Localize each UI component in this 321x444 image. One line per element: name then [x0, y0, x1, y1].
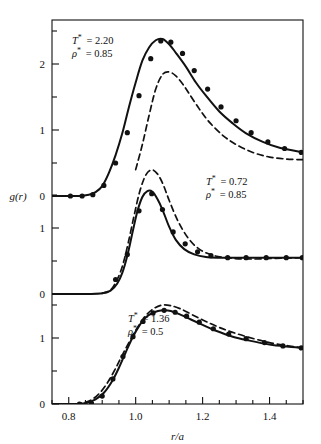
data-point: [184, 314, 189, 319]
annotation-middle: T* = 0.72ρ* = 0.85: [205, 174, 247, 201]
y-tick-label: 0: [40, 190, 46, 202]
data-point: [113, 277, 118, 282]
figure-container: 0.81.01.21.4r/a0101012g(r)T* = 2.20ρ* = …: [0, 0, 321, 444]
y-tick-label: 1: [40, 332, 46, 344]
data-point: [173, 310, 178, 315]
annotation-top: T* = 2.20ρ* = 0.85: [71, 33, 113, 60]
data-point: [136, 208, 141, 213]
data-point: [211, 326, 216, 331]
data-point: [120, 354, 125, 359]
data-point: [110, 376, 115, 381]
data-point: [280, 343, 285, 348]
data-point: [195, 249, 200, 254]
data-point: [90, 192, 95, 197]
plot-frame: [52, 20, 303, 404]
data-point: [171, 229, 176, 234]
data-point: [149, 191, 154, 196]
data-point: [282, 146, 287, 151]
curves-layer: [52, 38, 305, 406]
data-point: [249, 130, 254, 135]
data-point: [226, 331, 231, 336]
dashed-curve: [136, 72, 303, 170]
data-point: [233, 118, 238, 123]
data-point: [68, 193, 73, 198]
panel-top: [52, 38, 304, 198]
data-point: [218, 104, 223, 109]
data-point: [77, 401, 82, 406]
data-point: [262, 340, 267, 345]
temperature-label: T* = 2.20: [72, 33, 113, 47]
data-point: [125, 252, 130, 257]
x-tick-label: 1.2: [196, 410, 210, 422]
y-axis-title: g(r): [9, 190, 26, 203]
x-tick-label: 1.0: [129, 410, 143, 422]
data-point: [284, 255, 289, 260]
data-point: [160, 207, 165, 212]
data-point: [244, 255, 249, 260]
data-points-group: [113, 191, 305, 282]
panel-bottom: [52, 305, 304, 407]
data-point: [265, 139, 270, 144]
data-point: [158, 38, 163, 43]
solid-curve: [52, 310, 303, 404]
data-point: [100, 393, 105, 398]
data-point: [101, 183, 106, 188]
data-point: [244, 336, 249, 341]
y-axis-ticks: 0101012: [40, 31, 60, 410]
y-tick-label: 0: [40, 398, 46, 410]
data-point: [180, 51, 185, 56]
x-axis-title: r/a: [171, 430, 184, 442]
gr-plot-svg: 0.81.01.21.4r/a0101012g(r)T* = 2.20ρ* = …: [0, 0, 321, 444]
data-point: [300, 255, 305, 260]
y-tick-label: 2: [40, 58, 46, 70]
temperature-label: T* = 0.72: [206, 174, 247, 188]
data-point: [183, 241, 188, 246]
data-point: [148, 56, 153, 61]
x-tick-label: 0.8: [62, 410, 76, 422]
data-point: [89, 401, 94, 406]
data-point: [136, 93, 141, 98]
data-point: [225, 255, 230, 260]
data-point: [80, 193, 85, 198]
data-point: [205, 86, 210, 91]
y-tick-label: 1: [40, 222, 46, 234]
density-label: ρ* = 0.85: [205, 187, 247, 201]
data-point: [264, 255, 269, 260]
y-tick-label: 1: [40, 124, 46, 136]
solid-curve: [52, 39, 303, 196]
density-label: ρ* = 0.85: [71, 46, 113, 60]
data-points-group: [77, 308, 304, 407]
x-tick-label: 1.4: [263, 410, 277, 422]
y-tick-label: 0: [40, 288, 46, 300]
solid-curve: [52, 191, 303, 295]
temperature-label: T* = 1.36: [128, 311, 169, 325]
data-point: [168, 40, 173, 45]
data-points-group: [68, 38, 304, 198]
data-point: [208, 253, 213, 258]
data-point: [113, 160, 118, 165]
data-point: [197, 320, 202, 325]
density-label: ρ* = 0.5: [127, 324, 163, 338]
data-point: [192, 68, 197, 73]
panel-middle: [52, 170, 305, 294]
data-point: [125, 130, 130, 135]
